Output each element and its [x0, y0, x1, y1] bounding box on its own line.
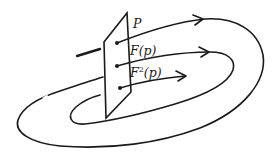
- label-f-p: F(p): [129, 43, 157, 58]
- incoming-trajectory-stub: [77, 49, 100, 56]
- poincare-map-diagram: P F(p) F2(p): [0, 0, 280, 156]
- label-f2-p-arg: (p): [144, 65, 162, 80]
- label-section-p: P: [132, 16, 142, 31]
- label-f2-p: F2(p): [129, 65, 162, 80]
- label-f-p-arg: (p): [139, 43, 157, 58]
- point-p: [115, 41, 119, 45]
- point-f-p: [115, 64, 119, 68]
- outer-loop-gap-right: [253, 91, 255, 95]
- middle-loop-gap-right: [213, 90, 217, 93]
- point-f2-p: [118, 86, 122, 90]
- middle-trajectory-loop: [70, 52, 233, 124]
